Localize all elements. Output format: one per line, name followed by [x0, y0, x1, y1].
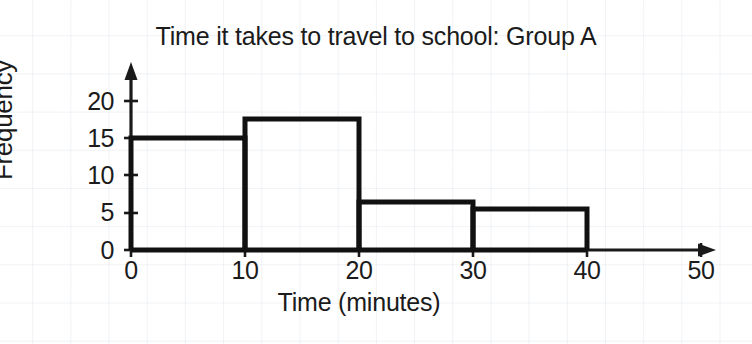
chart-page: Time it takes to travel to school: Group… — [0, 0, 752, 344]
bar-20-30[interactable] — [359, 202, 473, 250]
histogram-bars — [131, 119, 587, 250]
bar-30-40[interactable] — [473, 209, 587, 250]
histogram-plot — [0, 0, 752, 344]
bar-0-10[interactable] — [131, 138, 245, 250]
bar-10-20[interactable] — [245, 119, 359, 250]
